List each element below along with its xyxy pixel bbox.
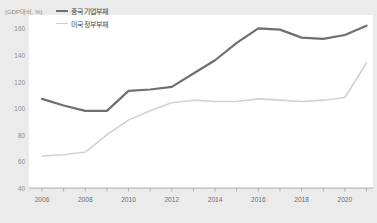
legend-label-china: 중국 기업부채 [71, 6, 108, 16]
legend-line-swatch-us [56, 23, 68, 24]
chart-legend: 중국 기업부채 미국 정부부채 [56, 6, 108, 29]
legend-line-swatch-china [56, 10, 68, 12]
chart-svg [0, 0, 377, 223]
series-line-us [42, 63, 367, 156]
legend-item-china: 중국 기업부채 [56, 6, 108, 16]
series-line-china [42, 26, 367, 111]
legend-label-us: 미국 정부부채 [71, 19, 108, 29]
chart-container: (GDP대비, %) 중국 기업부채 미국 정부부채 1601401201008… [0, 0, 377, 223]
legend-item-us: 미국 정부부채 [56, 19, 108, 29]
